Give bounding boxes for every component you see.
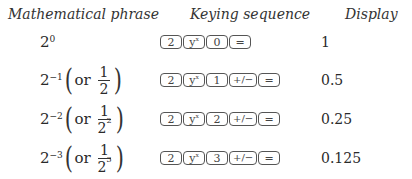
- math-phrase: 2−2 ( or 1 22 ): [40, 99, 125, 139]
- math-phrase: 2−3 ( or 1 23 ): [40, 138, 125, 178]
- fraction: 1 22: [98, 104, 112, 135]
- key-plus-minus: +/−: [229, 112, 257, 126]
- key-2: 2: [160, 112, 182, 126]
- denominator: 22: [98, 120, 112, 135]
- numerator: 1: [98, 65, 111, 81]
- keying-sequence: 2 yx 2 +/− =: [160, 99, 280, 139]
- key-y-power-x: yx: [183, 35, 205, 49]
- left-paren: (: [65, 65, 73, 95]
- exponent: −1: [50, 72, 63, 82]
- key-label-sup: x: [195, 74, 198, 80]
- exponent: −2: [50, 111, 63, 121]
- right-paren: ): [115, 104, 123, 134]
- fraction: 1 23: [98, 143, 112, 174]
- key-2: 2: [160, 73, 182, 87]
- denominator-exponent: 2: [106, 116, 111, 125]
- or-text: or: [75, 110, 91, 128]
- fraction: 1 2: [98, 65, 111, 96]
- key-2: 2: [160, 151, 182, 165]
- or-text: or: [75, 149, 91, 167]
- key-y-power-x: yx: [183, 112, 205, 126]
- table-row: 2−1 ( or 1 2 ) 2 yx 1 +/− = 0.5: [0, 60, 412, 100]
- math-phrase: 2−1 ( or 1 2 ): [40, 60, 124, 100]
- header-phrase: Mathematical phrase: [8, 6, 159, 22]
- header-display: Display: [345, 6, 398, 22]
- header-keying-sequence: Keying sequence: [190, 6, 310, 22]
- right-paren: ): [115, 143, 123, 173]
- display-value: 0.125: [321, 138, 361, 178]
- key-y-power-x: yx: [183, 151, 205, 165]
- math-phrase: 20: [40, 22, 55, 62]
- denominator-base: 2: [100, 81, 109, 97]
- key-plus-minus: +/−: [229, 73, 257, 87]
- key-0: 0: [206, 35, 228, 49]
- key-equals: =: [229, 35, 251, 49]
- denominator: 2: [100, 81, 109, 96]
- exponent: 0: [50, 34, 56, 44]
- table-row: 2−3 ( or 1 23 ) 2 yx 3 +/− = 0.125: [0, 138, 412, 178]
- keying-sequence: 2 yx 3 +/− =: [160, 138, 280, 178]
- key-y-power-x: yx: [183, 73, 205, 87]
- keying-sequence: 2 yx 1 +/− =: [160, 60, 280, 100]
- key-1: 1: [206, 73, 228, 87]
- base: 2: [40, 71, 50, 89]
- base: 2: [40, 149, 50, 167]
- base: 2: [40, 110, 50, 128]
- display-value: 1: [321, 22, 330, 62]
- or-text: or: [75, 71, 91, 89]
- left-paren: (: [65, 104, 73, 134]
- denominator-exponent: 3: [106, 155, 111, 164]
- display-value: 0.5: [321, 60, 343, 100]
- denominator: 23: [98, 159, 112, 174]
- base: 2: [40, 33, 50, 51]
- key-label-sup: x: [195, 113, 198, 119]
- exponent: −3: [50, 150, 63, 160]
- key-equals: =: [258, 73, 280, 87]
- display-value: 0.25: [321, 99, 352, 139]
- key-equals: =: [258, 112, 280, 126]
- keying-sequence: 2 yx 0 =: [160, 22, 251, 62]
- key-label-sup: x: [195, 152, 198, 158]
- right-paren: ): [114, 65, 122, 95]
- key-3: 3: [206, 151, 228, 165]
- key-label-sup: x: [195, 36, 198, 42]
- key-2: 2: [206, 112, 228, 126]
- table-row: 2−2 ( or 1 22 ) 2 yx 2 +/− = 0.25: [0, 99, 412, 139]
- key-2: 2: [160, 35, 182, 49]
- key-equals: =: [258, 151, 280, 165]
- table-row: 20 2 yx 0 = 1: [0, 22, 412, 62]
- key-plus-minus: +/−: [229, 151, 257, 165]
- left-paren: (: [65, 143, 73, 173]
